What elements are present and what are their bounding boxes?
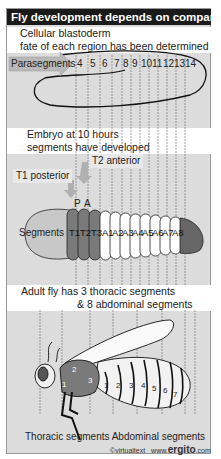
t1-posterior-label: T1 posterior	[13, 169, 72, 183]
parasegment-number: 9	[132, 58, 138, 69]
parasegment-number: 6	[102, 58, 108, 69]
t2-anterior-label: T2 anterior	[89, 154, 143, 168]
abdominal-number: 4	[141, 381, 145, 390]
parasegment-number: 5	[90, 58, 96, 69]
copyright-footer: ©virtualtext www.ergito.com	[110, 444, 211, 455]
posterior-marker: P	[74, 198, 81, 209]
segment-label: A8	[172, 227, 184, 238]
parasegment-number: 14	[185, 58, 196, 69]
parasegments-label: Parasegments	[11, 58, 75, 69]
parasegment-number: 7	[114, 58, 120, 69]
thoracic-number: 2	[72, 365, 76, 374]
abdominal-number: 3	[129, 381, 133, 390]
parasegment-number: 8	[123, 58, 129, 69]
abdominal-number: 2	[116, 381, 120, 390]
parasegment-number: 4	[77, 58, 83, 69]
url-suffix: .com	[196, 447, 211, 454]
eye	[38, 367, 48, 381]
parasegment-number: 11	[152, 58, 162, 69]
thoracic-number: 1	[62, 380, 66, 389]
abdominal-number: 1	[104, 381, 108, 390]
parasegment-number: 12	[163, 58, 174, 69]
parasegment-number: 10	[141, 58, 152, 69]
url-brand: ergito	[168, 444, 196, 455]
adult-fly	[35, 320, 190, 440]
segment-label: T3	[91, 227, 102, 238]
url-prefix: www.	[151, 447, 168, 454]
abdominal-number: 5	[152, 384, 156, 393]
segments-bottom-label: Thoracic segments Abdominal segments	[25, 431, 205, 442]
anterior-marker: A	[84, 198, 91, 209]
segment-label: T2	[80, 227, 91, 238]
parasegment-number: 13	[174, 58, 185, 69]
thoracic-number: 3	[88, 376, 92, 385]
segment-label: T1	[69, 227, 80, 238]
copyright-text: ©virtualtext	[110, 447, 145, 454]
antenna	[56, 348, 60, 362]
abdominal-number: 6	[163, 386, 167, 395]
abdominal-number: 7	[173, 390, 177, 399]
antenna	[48, 342, 52, 362]
segments-label: Segments	[19, 227, 64, 238]
thorax	[60, 360, 99, 397]
